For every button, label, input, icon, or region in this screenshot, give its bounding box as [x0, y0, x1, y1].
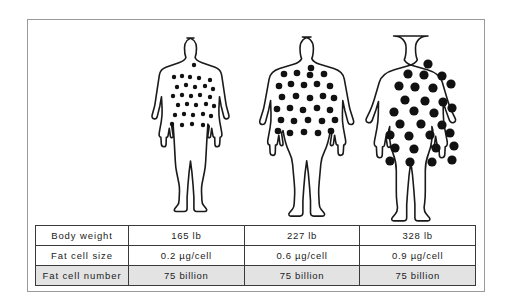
body-figure-overweight — [256, 32, 366, 217]
table-row-body-weight: Body weight 165 lb 227 lb 328 lb — [36, 226, 476, 246]
cell-body-weight-overweight: 227 lb — [244, 226, 360, 246]
row-header-body-weight: Body weight — [36, 226, 129, 246]
fat-cell-figure: Body weight 165 lb 227 lb 328 lb Fat cel… — [0, 0, 510, 306]
cell-fat-cell-size-overweight: 0.6 µg/cell — [244, 246, 360, 266]
row-header-fat-cell-size: Fat cell size — [36, 246, 129, 266]
body-figure-obese — [366, 32, 490, 217]
cell-fat-cell-number-lean: 75 billion — [129, 266, 245, 286]
table-row-fat-cell-size: Fat cell size 0.2 µg/cell 0.6 µg/cell 0.… — [36, 246, 476, 266]
overweight-silhouette-svg — [256, 32, 366, 217]
table-row-fat-cell-number: Fat cell number 75 billion 75 billion 75… — [36, 266, 476, 286]
fat-cell-data-table: Body weight 165 lb 227 lb 328 lb Fat cel… — [35, 225, 476, 286]
row-header-fat-cell-number: Fat cell number — [36, 266, 129, 286]
lean-silhouette-svg — [148, 32, 240, 217]
cell-fat-cell-size-lean: 0.2 µg/cell — [129, 246, 245, 266]
overweight-body-outline — [260, 37, 354, 216]
cell-body-weight-obese: 328 lb — [360, 226, 476, 246]
figure-frame: Body weight 165 lb 227 lb 328 lb Fat cel… — [27, 19, 485, 292]
cell-body-weight-lean: 165 lb — [129, 226, 245, 246]
obese-silhouette-svg — [366, 32, 490, 217]
cell-fat-cell-number-overweight: 75 billion — [244, 266, 360, 286]
body-silhouettes-group — [28, 20, 484, 220]
cell-fat-cell-number-obese: 75 billion — [360, 266, 476, 286]
cell-fat-cell-size-obese: 0.9 µg/cell — [360, 246, 476, 266]
body-figure-lean — [148, 32, 240, 217]
